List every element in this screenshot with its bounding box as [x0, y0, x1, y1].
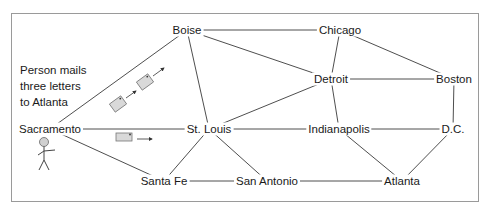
- envelope-icon: [136, 74, 153, 90]
- network-diagram: Person mails three letters to Atlanta Bo…: [0, 0, 491, 212]
- envelope-icon: [116, 133, 132, 141]
- envelope-icon: [109, 96, 126, 112]
- envelope-icons: [0, 0, 491, 212]
